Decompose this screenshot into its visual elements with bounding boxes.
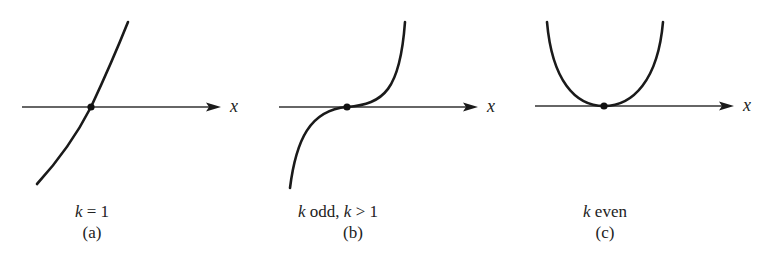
- x-axis-label: x: [743, 96, 751, 114]
- origin-point: [600, 102, 607, 109]
- panel-c: x k even (c): [0, 0, 760, 259]
- sublabel-c: (c): [505, 223, 705, 243]
- caption-var: k: [583, 202, 591, 221]
- caption-c: k even: [505, 202, 705, 222]
- caption-rest: even: [591, 202, 627, 221]
- curve-k-even: [547, 22, 663, 106]
